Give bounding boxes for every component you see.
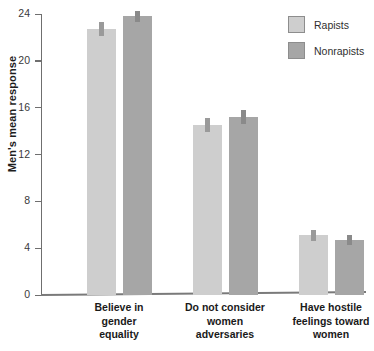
legend-swatch-icon: [288, 42, 305, 59]
x-axis-label-line: women: [271, 328, 374, 342]
y-tick-mark: [35, 154, 41, 155]
bar: [335, 240, 364, 295]
x-axis-label-line: Have hostile: [271, 301, 374, 315]
bar-chart: Men's mean response 04812162024 Believe …: [0, 0, 374, 351]
x-axis-group-label: Do not considerwomenadversaries: [165, 301, 285, 342]
bar: [123, 16, 152, 295]
legend-label: Nonrapists: [314, 45, 364, 57]
bar: [193, 125, 222, 295]
x-axis-label-line: adversaries: [165, 328, 285, 342]
bar: [299, 235, 328, 295]
y-tick-label: 0: [0, 288, 30, 300]
y-tick-mark: [35, 248, 41, 249]
legend-item-nonrapists: Nonrapists: [288, 42, 364, 59]
y-tick-label: 8: [0, 194, 30, 206]
legend: Rapists Nonrapists: [288, 16, 364, 68]
x-axis-label-line: Believe in: [59, 301, 179, 315]
y-tick-label: 4: [0, 241, 30, 253]
y-tick-mark: [35, 295, 41, 296]
y-tick-mark: [35, 201, 41, 202]
y-tick-mark: [35, 14, 41, 15]
y-tick-label: 20: [0, 54, 30, 66]
legend-label: Rapists: [314, 19, 349, 31]
legend-swatch-icon: [288, 16, 305, 33]
x-axis-label-line: feelings toward: [271, 315, 374, 329]
error-bar: [99, 22, 104, 36]
x-axis-label-line: Do not consider: [165, 301, 285, 315]
error-bar: [241, 110, 246, 124]
y-tick-label: 12: [0, 148, 30, 160]
y-axis-line: [41, 14, 42, 295]
y-tick-mark: [35, 107, 41, 108]
x-axis-label-line: women: [165, 315, 285, 329]
error-bar: [135, 11, 140, 23]
error-bar: [311, 230, 316, 241]
bar: [87, 29, 116, 295]
x-axis-label-line: gender: [59, 315, 179, 329]
bar: [229, 117, 258, 295]
x-axis-group-label: Have hostilefeelings towardwomen: [271, 301, 374, 342]
x-axis-label-line: equality: [59, 328, 179, 342]
error-bar: [347, 235, 352, 244]
error-bar: [205, 118, 210, 132]
y-tick-label: 16: [0, 101, 30, 113]
x-axis-group-label: Believe ingenderequality: [59, 301, 179, 342]
y-tick-label: 24: [0, 7, 30, 19]
y-tick-mark: [35, 60, 41, 61]
legend-item-rapists: Rapists: [288, 16, 364, 33]
